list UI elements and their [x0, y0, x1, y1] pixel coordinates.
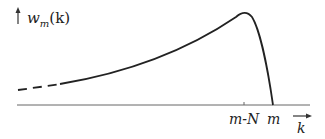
curve-solid	[60, 13, 273, 105]
window-function-diagram: wm(k) m-N m k	[0, 0, 325, 139]
y-axis-arrow-icon	[16, 7, 21, 24]
x-axis-arrow-icon	[293, 114, 312, 119]
curve-dashed-tail	[18, 84, 62, 90]
x-axis-label: k	[297, 120, 305, 136]
tick-label-m-N: m-N	[229, 111, 260, 127]
tick-label-m: m	[267, 111, 280, 127]
y-axis-label: wm(k)	[27, 9, 70, 29]
